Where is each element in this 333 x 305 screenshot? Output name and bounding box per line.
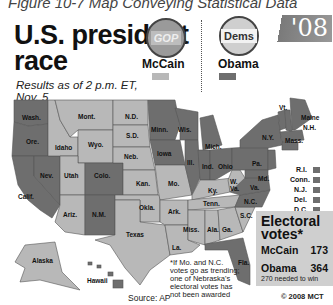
label-mo: Mo. <box>168 180 179 187</box>
state-wash <box>14 100 48 126</box>
state-alaska <box>15 242 80 290</box>
state-hawaii-3 <box>108 272 113 276</box>
footnote: *If Mo. and N.C. votes go as trending; o… <box>170 259 242 299</box>
label-maine: Maine <box>301 114 319 121</box>
label-kan: Kan. <box>136 180 150 187</box>
label-okla: Okla. <box>139 204 155 211</box>
label-calif: Calif. <box>18 193 34 200</box>
label-nh: N.H. <box>303 124 316 131</box>
label-ri: R.I. <box>296 166 307 173</box>
label-texas: Texas <box>126 231 144 238</box>
label-nev: Nev. <box>40 172 53 179</box>
figure-caption: Figure 10-7 Map Conveying Statistical Da… <box>8 0 297 11</box>
label-vt: Vt. <box>279 104 287 111</box>
label-la: La. <box>172 244 181 251</box>
label-wash: Wash. <box>22 114 41 121</box>
swatch-ri <box>313 167 320 173</box>
label-nc: N.C. <box>244 198 257 205</box>
label-nj: N.J. <box>294 186 307 193</box>
state-pa <box>232 146 268 170</box>
label-sd: S.D. <box>126 132 139 139</box>
label-mich: Mich. <box>205 143 222 150</box>
legend-divider <box>201 20 202 92</box>
swatch-del <box>313 197 320 203</box>
state-hawaii-4 <box>113 280 123 288</box>
label-ark: Ark. <box>168 208 181 215</box>
label-del: Del. <box>294 196 307 203</box>
gop-badge-icon: GOP <box>146 18 186 58</box>
label-minn: Minn. <box>151 126 168 133</box>
label-ky: Ky. <box>208 187 218 194</box>
label-idaho: Idaho <box>55 144 72 151</box>
label-iowa: Iowa <box>157 150 171 157</box>
label-nd: N.D. <box>125 113 138 120</box>
obama-votes-row: Obama 364 <box>261 262 328 274</box>
legend-mccain-swatch <box>152 73 169 80</box>
label-ariz: Ariz. <box>63 211 77 218</box>
mccain-votes-label: McCain <box>261 244 298 256</box>
obama-votes-value: 364 <box>310 262 328 274</box>
subtitle-line-1: Results as of 2 p.m. ET, <box>16 79 138 91</box>
legend-obama-label: Obama <box>218 57 259 71</box>
label-colo: Colo. <box>94 172 110 179</box>
label-wyo: Wyo. <box>88 141 103 148</box>
mccain-votes-value: 173 <box>310 244 328 256</box>
label-nm: N.M. <box>92 211 106 218</box>
copyright: © 2008 MCT <box>281 292 324 301</box>
state-ny <box>240 115 282 148</box>
swatch-conn <box>313 177 320 183</box>
label-md: Md. <box>258 175 269 182</box>
label-tenn: Tenn. <box>203 200 220 207</box>
state-hawaii-2 <box>97 265 101 268</box>
label-miss: Miss. <box>183 226 199 233</box>
label-pa: Pa. <box>252 160 262 167</box>
label-sc: S.C. <box>240 212 253 219</box>
label-mont: Mont. <box>78 113 95 120</box>
legend-mccain-label: McCain <box>142 57 185 71</box>
mccain-votes-row: McCain 173 <box>261 244 328 256</box>
label-ny: N.Y. <box>262 134 274 141</box>
state-minn <box>148 100 180 140</box>
label-neb: Neb. <box>124 153 138 160</box>
state-nj <box>268 150 276 170</box>
label-va: Va. <box>250 184 259 191</box>
swatch-nj <box>313 187 320 193</box>
label-ala: Ala. <box>207 226 219 233</box>
electoral-heading-2: votes* <box>261 228 328 241</box>
label-conn: Conn. <box>290 176 310 183</box>
year-badge: '08 <box>276 15 332 42</box>
label-ind: Ind. <box>202 163 214 170</box>
state-hawaii-1 <box>88 262 92 265</box>
label-wis: Wis. <box>178 126 191 133</box>
obama-votes-label: Obama <box>261 262 297 274</box>
state-colo <box>85 163 123 195</box>
dems-badge-icon: Dems <box>219 16 259 56</box>
label-hawaii: Hawaii <box>87 277 108 284</box>
label-alaska: Alaska <box>32 257 53 264</box>
dems-badge-text: Dems <box>221 29 257 43</box>
label-ore: Ore. <box>26 138 39 145</box>
votes-needed-note: 270 needed to win <box>261 275 328 282</box>
legend-obama-swatch <box>219 73 236 80</box>
label-ohio: Ohio <box>218 163 233 170</box>
source-credit: Source: AP <box>128 293 171 303</box>
label-mass: Mass. <box>285 137 303 144</box>
electoral-votes-box: Electoral votes* McCain 173 Obama 364 27… <box>256 211 333 286</box>
label-ga: Ga. <box>222 226 232 233</box>
label-ill: Ill. <box>187 159 194 166</box>
label-wva: W. Va. <box>230 178 248 192</box>
gop-badge-text: GOP <box>151 31 181 45</box>
label-utah: Utah <box>64 172 78 179</box>
